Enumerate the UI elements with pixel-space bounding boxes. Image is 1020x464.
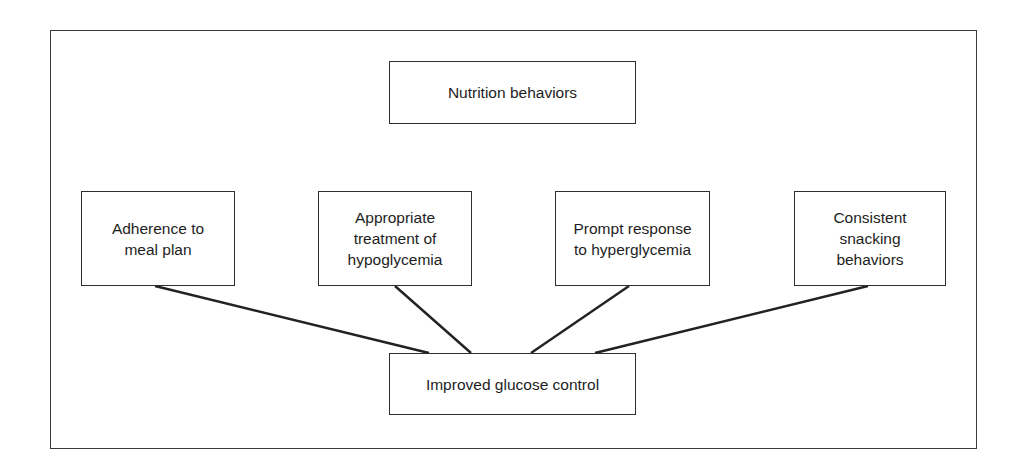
node-adherence-meal-plan: Adherence to meal plan: [81, 191, 235, 286]
edge-snacking: [595, 286, 868, 353]
node-label: Appropriate treatment of hypoglycemia: [348, 207, 443, 270]
node-improved-glucose-control: Improved glucose control: [389, 353, 636, 415]
node-label: Improved glucose control: [426, 374, 599, 395]
edge-meal-plan: [155, 286, 429, 353]
node-label: Consistent snacking behaviors: [833, 207, 906, 270]
node-label: Nutrition behaviors: [448, 82, 577, 103]
node-response-hyperglycemia: Prompt response to hyperglycemia: [555, 191, 710, 286]
node-nutrition-behaviors: Nutrition behaviors: [389, 61, 636, 124]
node-treatment-hypoglycemia: Appropriate treatment of hypoglycemia: [318, 191, 472, 286]
edge-hypoglycemia: [395, 286, 471, 353]
node-label: Adherence to meal plan: [112, 218, 204, 260]
edge-hyperglycemia: [531, 286, 629, 353]
node-snacking-behaviors: Consistent snacking behaviors: [794, 191, 946, 286]
node-label: Prompt response to hyperglycemia: [573, 218, 691, 260]
